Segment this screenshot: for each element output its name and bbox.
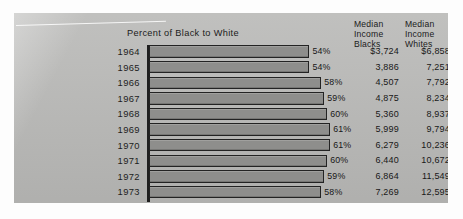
row-bar: [149, 45, 309, 57]
row-bar-fill: [149, 139, 330, 151]
row-bar: [149, 155, 327, 167]
row-year-label: 1973: [54, 186, 140, 197]
row-bar: [149, 170, 324, 182]
row-bar: [149, 186, 321, 198]
row-median-income-whites: 8,937: [405, 109, 448, 119]
chart-row: 196554%3,8867,251: [14, 60, 448, 76]
row-bar: [149, 92, 324, 104]
row-median-income-blacks: 5,999: [354, 124, 399, 134]
row-median-income-blacks: 7,269: [354, 187, 399, 197]
row-year-label: 1970: [54, 140, 140, 151]
plot-area: 196454%$3,724$6,858196554%3,8867,2511966…: [14, 44, 448, 203]
chart-row: 196860%5,3608,937: [14, 106, 448, 122]
row-bar-fill: [149, 186, 321, 198]
row-percent-label: 61%: [333, 124, 351, 134]
column-header-blacks-line2: Income: [354, 29, 399, 39]
row-median-income-blacks: 4,507: [354, 77, 399, 87]
chart-row: 196759%4,8758,234: [14, 91, 448, 107]
row-percent-label: 54%: [312, 46, 330, 56]
chart-row: 196658%4,5077,792: [14, 75, 448, 91]
row-bar: [149, 123, 330, 135]
row-percent-label: 58%: [324, 77, 342, 87]
row-bar: [149, 77, 321, 89]
row-median-income-whites: 11,549: [405, 171, 448, 181]
scan-scratch-artifact: [16, 21, 166, 26]
row-percent-label: 59%: [327, 171, 345, 181]
row-bar-fill: [149, 123, 330, 135]
row-median-income-whites: 7,792: [405, 77, 448, 87]
row-median-income-whites: 9,794: [405, 124, 448, 134]
row-year-label: 1966: [54, 77, 140, 88]
row-bar: [149, 139, 330, 151]
row-percent-label: 61%: [333, 140, 351, 150]
row-year-label: 1967: [54, 93, 140, 104]
row-median-income-blacks: 4,875: [354, 93, 399, 103]
row-median-income-whites: $6,858: [405, 46, 448, 56]
row-median-income-whites: 10,236: [405, 140, 448, 150]
row-year-label: 1972: [54, 171, 140, 182]
chart-row: 197358%7,26912,595: [14, 184, 448, 200]
row-median-income-blacks: 6,864: [354, 171, 399, 181]
row-year-label: 1964: [54, 46, 140, 57]
row-year-label: 1971: [54, 155, 140, 166]
row-bar: [149, 61, 309, 73]
row-percent-label: 60%: [330, 109, 348, 119]
column-header-whites-line1: Median: [405, 19, 448, 29]
chart-row: 196961%5,9999,794: [14, 122, 448, 138]
row-year-label: 1969: [54, 124, 140, 135]
chart-figure: Percent of Black to White Median Income …: [0, 0, 463, 219]
row-bar-fill: [149, 108, 327, 120]
row-median-income-blacks: $3,724: [354, 46, 399, 56]
chart-panel: Percent of Black to White Median Income …: [14, 13, 448, 203]
row-percent-label: 58%: [324, 187, 342, 197]
chart-row: 196454%$3,724$6,858: [14, 44, 448, 60]
row-median-income-blacks: 6,440: [354, 155, 399, 165]
chart-row: 197259%6,86411,549: [14, 169, 448, 185]
row-percent-label: 59%: [327, 93, 345, 103]
row-median-income-whites: 8,234: [405, 93, 448, 103]
row-bar-fill: [149, 61, 309, 73]
row-percent-label: 54%: [312, 62, 330, 72]
row-median-income-whites: 10,672: [405, 155, 448, 165]
chart-row: 197061%6,27910,236: [14, 138, 448, 154]
row-percent-label: 60%: [330, 155, 348, 165]
row-median-income-whites: 12,595: [405, 187, 448, 197]
row-median-income-blacks: 5,360: [354, 109, 399, 119]
row-bar-fill: [149, 45, 309, 57]
row-bar: [149, 108, 327, 120]
column-header-blacks-line1: Median: [354, 19, 399, 29]
row-median-income-blacks: 6,279: [354, 140, 399, 150]
row-median-income-blacks: 3,886: [354, 62, 399, 72]
row-bar-fill: [149, 92, 324, 104]
row-bar-fill: [149, 170, 324, 182]
row-year-label: 1968: [54, 108, 140, 119]
row-median-income-whites: 7,251: [405, 62, 448, 72]
column-header-whites-line2: Income: [405, 29, 448, 39]
row-bar-fill: [149, 77, 321, 89]
row-bar-fill: [149, 155, 327, 167]
chart-row: 197160%6,44010,672: [14, 153, 448, 169]
row-year-label: 1965: [54, 62, 140, 73]
chart-title: Percent of Black to White: [52, 28, 314, 38]
